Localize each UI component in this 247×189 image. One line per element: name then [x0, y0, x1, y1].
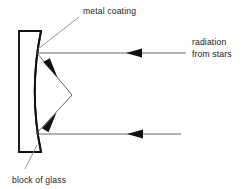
- metal-coating-leader-line: [38, 17, 79, 49]
- arrowhead-icon-incoming-upper: [126, 48, 142, 57]
- label-metal-coating: metal coating: [83, 6, 136, 16]
- label-block-of-glass: block of glass: [12, 175, 66, 185]
- incoming-ray-upper: [37, 48, 186, 57]
- reflected-ray-upper: [37, 53, 72, 95]
- arrowhead-icon-reflected-upper: [43, 58, 57, 77]
- incoming-ray-lower: [36, 129, 181, 138]
- label-radiation-line2: from stars: [192, 49, 232, 59]
- reflected-ray-lower-line: [36, 95, 72, 134]
- optics-diagram: metal coating block of glass radiation f…: [0, 0, 247, 189]
- arrowhead-icon-reflected-lower: [42, 113, 57, 133]
- reflected-ray-lower: [36, 95, 72, 134]
- label-radiation-line1: radiation: [192, 37, 226, 47]
- diagram-canvas: metal coating block of glass radiation f…: [0, 0, 247, 189]
- arrowhead-icon-incoming-lower: [127, 129, 143, 138]
